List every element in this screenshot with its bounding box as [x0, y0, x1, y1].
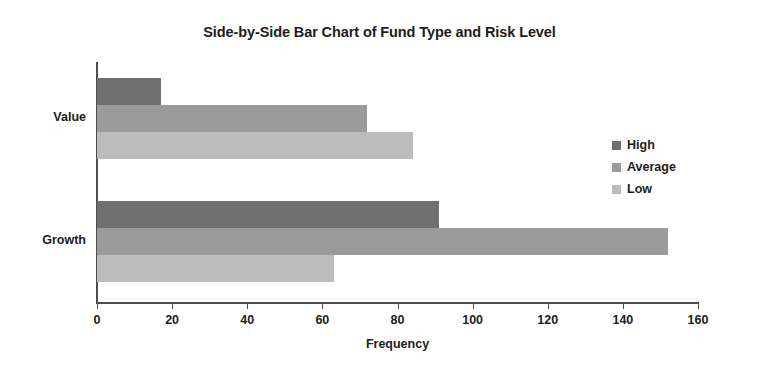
bar-value-low[interactable]: [97, 132, 413, 159]
chart-title: Side-by-Side Bar Chart of Fund Type and …: [0, 24, 759, 40]
x-axis-tick: [548, 304, 549, 309]
legend-item-label: Low: [627, 182, 652, 196]
legend-swatch-icon: [612, 185, 621, 194]
y-axis-label-value: Value: [0, 110, 86, 124]
bar-value-average[interactable]: [97, 105, 367, 132]
bar-growth-low[interactable]: [97, 255, 334, 282]
x-axis-tick: [623, 304, 624, 309]
x-axis-tick-label: 100: [443, 313, 503, 327]
x-axis-tick: [473, 304, 474, 309]
x-axis-tick-label: 120: [518, 313, 578, 327]
x-axis-tick-label: 60: [292, 313, 352, 327]
legend-item-label: High: [627, 138, 655, 152]
x-axis-tick-label: 40: [217, 313, 277, 327]
legend-swatch-icon: [612, 141, 621, 150]
x-axis-tick-label: 20: [142, 313, 202, 327]
x-axis-tick-label: 0: [67, 313, 127, 327]
bar-growth-high[interactable]: [97, 201, 439, 228]
y-axis-label-growth: Growth: [0, 233, 86, 247]
chart-legend: HighAverageLow: [612, 134, 676, 200]
x-axis-tick: [247, 304, 248, 309]
legend-item-label: Average: [627, 160, 676, 174]
x-axis-tick-label: 80: [368, 313, 428, 327]
bar-value-high[interactable]: [97, 78, 161, 105]
x-axis-tick: [322, 304, 323, 309]
x-axis-tick-label: 160: [668, 313, 728, 327]
x-axis-tick-label: 140: [593, 313, 653, 327]
x-axis-tick: [97, 304, 98, 309]
bar-growth-average[interactable]: [97, 228, 668, 255]
bar-chart: Side-by-Side Bar Chart of Fund Type and …: [0, 0, 759, 381]
x-axis-tick: [698, 304, 699, 309]
legend-item-average[interactable]: Average: [612, 156, 676, 178]
x-axis-title: Frequency: [97, 337, 698, 351]
x-axis-tick: [172, 304, 173, 309]
legend-item-low[interactable]: Low: [612, 178, 676, 200]
x-axis-tick: [398, 304, 399, 309]
plot-area: Value Growth: [97, 62, 698, 302]
legend-swatch-icon: [612, 163, 621, 172]
legend-item-high[interactable]: High: [612, 134, 676, 156]
